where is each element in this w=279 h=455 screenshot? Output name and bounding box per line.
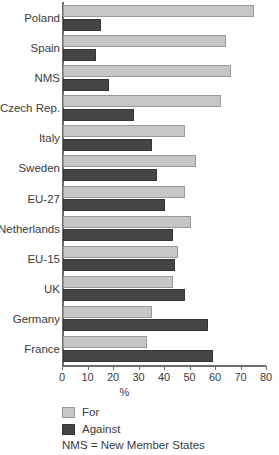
bar-row: Germany	[0, 305, 279, 335]
x-tick-mark	[215, 366, 216, 370]
category-label: Sweden	[0, 161, 60, 176]
bar-for	[63, 246, 178, 258]
x-tick-mark	[164, 366, 165, 370]
x-tick-label: 0	[59, 371, 65, 384]
bar-group	[63, 5, 267, 33]
bar-for	[63, 276, 173, 288]
bar-group	[63, 65, 267, 93]
x-tick-label: 80	[260, 371, 272, 384]
bar-against	[63, 289, 185, 301]
x-tick-label: 20	[107, 371, 119, 384]
bar-for	[63, 95, 221, 107]
bar-group	[63, 246, 267, 274]
legend-swatch	[62, 407, 75, 418]
bar-against	[63, 19, 101, 31]
bar-group	[63, 125, 267, 153]
x-tick-mark	[241, 366, 242, 370]
legend-label: Against	[82, 422, 120, 436]
category-label: NMS	[0, 71, 60, 86]
bar-against	[63, 79, 109, 91]
bar-for	[63, 155, 196, 167]
bar-against	[63, 319, 208, 331]
bar-against	[63, 169, 157, 181]
bar-against	[63, 259, 175, 271]
bar-against	[63, 139, 152, 151]
x-tick-mark	[139, 366, 140, 370]
bar-row: Sweden	[0, 154, 279, 184]
bar-group	[63, 336, 267, 364]
legend-item: For	[62, 404, 277, 420]
category-label: Poland	[0, 11, 60, 26]
bar-group	[63, 276, 267, 304]
bar-row: Czech Rep.	[0, 94, 279, 124]
bar-against	[63, 49, 96, 61]
x-tick-label: 60	[209, 371, 221, 384]
x-tick-mark	[62, 366, 63, 370]
bar-for	[63, 65, 231, 77]
bar-group	[63, 306, 267, 334]
bar-chart: PolandSpainNMSCzech Rep.ItalySwedenEU-27…	[0, 0, 279, 455]
category-label: Spain	[0, 41, 60, 56]
x-tick-mark	[266, 366, 267, 370]
category-label: France	[0, 342, 60, 357]
category-label: Netherlands	[0, 222, 60, 237]
category-label: Germany	[0, 312, 60, 327]
bar-row: Poland	[0, 4, 279, 34]
bar-group	[63, 155, 267, 183]
x-tick-label: 50	[183, 371, 195, 384]
plot-area: PolandSpainNMSCzech Rep.ItalySwedenEU-27…	[0, 0, 279, 372]
x-tick-label: 30	[132, 371, 144, 384]
bar-row: Italy	[0, 124, 279, 154]
bar-group	[63, 95, 267, 123]
bar-for	[63, 186, 185, 198]
bar-row: UK	[0, 275, 279, 305]
category-label: UK	[0, 282, 60, 297]
x-tick-mark	[113, 366, 114, 370]
bar-row: EU-27	[0, 185, 279, 215]
bar-row: Netherlands	[0, 215, 279, 245]
x-tick-label: 70	[234, 371, 246, 384]
x-tick-label: 10	[81, 371, 93, 384]
footnote: NMS = New Member States	[62, 438, 205, 452]
category-label: Czech Rep.	[0, 101, 60, 116]
x-tick-mark	[88, 366, 89, 370]
bar-for	[63, 125, 185, 137]
bar-row: Spain	[0, 34, 279, 64]
x-tick-label: 40	[158, 371, 170, 384]
chart-legend: ForAgainst	[62, 404, 277, 438]
bar-row: NMS	[0, 64, 279, 94]
category-label: Italy	[0, 131, 60, 146]
bar-against	[63, 350, 213, 362]
x-tick-mark	[190, 366, 191, 370]
legend-label: For	[82, 405, 99, 419]
x-axis-title: %	[0, 386, 279, 398]
bar-row: France	[0, 335, 279, 365]
bar-for	[63, 336, 147, 348]
legend-swatch	[62, 424, 75, 435]
category-label: EU-15	[0, 252, 60, 267]
bar-group	[63, 216, 267, 244]
bar-for	[63, 35, 226, 47]
bar-against	[63, 229, 173, 241]
bar-for	[63, 216, 191, 228]
bar-rows: PolandSpainNMSCzech Rep.ItalySwedenEU-27…	[0, 4, 279, 365]
bar-for	[63, 306, 152, 318]
category-label: EU-27	[0, 192, 60, 207]
bar-group	[63, 186, 267, 214]
bar-against	[63, 109, 134, 121]
bar-row: EU-15	[0, 245, 279, 275]
bar-against	[63, 199, 165, 211]
bar-for	[63, 5, 254, 17]
legend-item: Against	[62, 421, 277, 437]
x-axis-title-label: %	[120, 386, 130, 398]
bar-group	[63, 35, 267, 63]
